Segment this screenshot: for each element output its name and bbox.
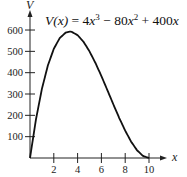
- eq-var-1: x: [88, 13, 95, 28]
- y-ticks: 100200300400500600: [7, 25, 35, 143]
- y-axis: [28, 10, 33, 158]
- x-tick-label: 4: [75, 164, 81, 175]
- y-axis-label: V: [26, 0, 35, 12]
- y-tick-label: 300: [7, 89, 23, 100]
- chart: V x 100200300400500600 246810 V(x) = 4x3…: [0, 0, 187, 177]
- x-axis-label: x: [171, 150, 178, 164]
- equation-annotation: V(x) = 4x3 − 80x2 + 400x: [45, 12, 179, 28]
- y-tick-label: 400: [7, 67, 23, 78]
- equation-lhs: V(x): [45, 13, 69, 28]
- y-tick-label: 500: [7, 46, 23, 57]
- x-ticks: 246810: [51, 153, 154, 175]
- x-tick-label: 6: [99, 164, 104, 175]
- eq-coef-2: − 80: [100, 13, 128, 28]
- eq-coef-3: + 400: [138, 13, 173, 28]
- eq-var-3: x: [172, 13, 179, 28]
- v-curve: [30, 32, 149, 158]
- y-tick-label: 200: [7, 110, 23, 121]
- x-axis-arrow-icon: [160, 156, 167, 161]
- x-tick-label: 10: [144, 164, 155, 175]
- y-tick-label: 100: [7, 131, 23, 142]
- y-tick-label: 600: [7, 25, 23, 36]
- x-tick-label: 2: [51, 164, 56, 175]
- x-tick-label: 8: [123, 164, 128, 175]
- eq-var-2: x: [127, 13, 134, 28]
